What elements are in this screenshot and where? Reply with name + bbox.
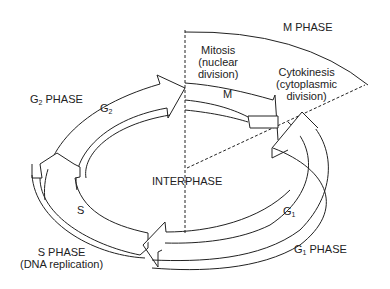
cytokinesis-line-3: division) bbox=[276, 90, 337, 102]
cytokinesis-line-1: Cytokinesis bbox=[276, 66, 337, 78]
g2-g: G bbox=[100, 102, 109, 114]
g2-inner-b bbox=[86, 115, 170, 178]
g2-label: G2 bbox=[100, 102, 112, 118]
m-arrow-box bbox=[248, 116, 278, 128]
m-arrow-low bbox=[185, 110, 248, 122]
s-phase-line-2: (DNA replication) bbox=[20, 258, 103, 270]
g2-sub: 2 bbox=[109, 108, 113, 115]
s-phase-label: S PHASE (DNA replication) bbox=[20, 246, 103, 270]
g2-phase-label: G2 PHASE bbox=[30, 93, 83, 109]
ring-outer-g1-b bbox=[152, 115, 328, 261]
g1-phase-g: G bbox=[294, 243, 303, 255]
interphase-label: INTERPHASE bbox=[152, 175, 222, 187]
g2-phase-g: G bbox=[30, 93, 39, 105]
cytokinesis-label: Cytokinesis (cytoplasmic division) bbox=[276, 66, 337, 102]
s-outer bbox=[40, 178, 140, 255]
g1-arrowhead bbox=[272, 112, 318, 148]
g2-arrowhead bbox=[157, 75, 185, 118]
g2-phase-suffix: PHASE bbox=[42, 93, 82, 105]
g1-bottom-notch bbox=[143, 245, 162, 267]
mitosis-label: Mitosis (nuclear division) bbox=[198, 44, 238, 80]
g1-bottom-arrowhead bbox=[143, 222, 166, 245]
cytokinesis-line-2: (cytoplasmic bbox=[276, 78, 337, 90]
m-label: M bbox=[223, 88, 232, 100]
s-phase-line-1: S PHASE bbox=[20, 246, 103, 258]
s-inner bbox=[75, 178, 148, 233]
mitosis-line-2: (nuclear bbox=[198, 56, 238, 68]
m-arrow-mid bbox=[185, 100, 250, 118]
mitosis-line-3: division) bbox=[198, 68, 238, 80]
g1-g: G bbox=[283, 205, 292, 217]
s-arrowhead bbox=[32, 153, 80, 178]
mitosis-line-1: Mitosis bbox=[198, 44, 238, 56]
g1-phase-label: G1 PHASE bbox=[294, 243, 347, 259]
g1-phase-suffix: PHASE bbox=[306, 243, 346, 255]
g1-label: G1 bbox=[283, 205, 295, 221]
s-label: S bbox=[77, 204, 84, 216]
m-phase-label: M PHASE bbox=[283, 21, 333, 33]
g1-sub: 1 bbox=[292, 211, 296, 218]
